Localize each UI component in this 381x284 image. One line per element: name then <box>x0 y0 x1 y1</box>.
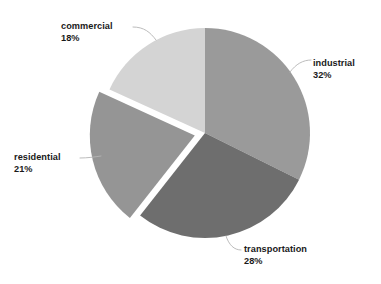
leader-line-transportation <box>226 236 241 250</box>
pie-label-residential-value: 21% <box>14 163 61 175</box>
pie-label-transportation-name: transportation <box>244 243 307 255</box>
pie-label-commercial-name: commercial <box>61 20 113 32</box>
pie-chart-figure <box>0 0 381 284</box>
pie-label-transportation-value: 28% <box>244 255 307 267</box>
pie-label-residential-name: residential <box>14 151 61 163</box>
pie-label-commercial: commercial 18% <box>61 20 113 44</box>
pie-label-transportation: transportation 28% <box>244 243 307 267</box>
pie-label-commercial-value: 18% <box>61 32 113 44</box>
pie-label-industrial-value: 32% <box>313 69 355 81</box>
pie-label-industrial: industrial 32% <box>313 57 355 81</box>
pie-label-residential: residential 21% <box>14 151 61 175</box>
pie-label-industrial-name: industrial <box>313 57 355 69</box>
leader-line-industrial <box>290 60 311 72</box>
pie-chart-page: commercial 18% industrial 32% residentia… <box>0 0 381 284</box>
leader-line-commercial <box>133 27 156 40</box>
pie-slices <box>90 28 310 238</box>
